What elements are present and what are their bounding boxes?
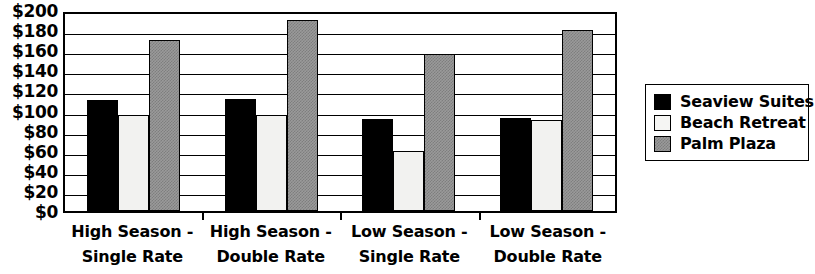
bar[interactable] [500, 118, 531, 211]
legend-item[interactable]: Beach Retreat [654, 112, 802, 133]
bar[interactable] [87, 100, 118, 211]
y-tick-label: $80 [23, 124, 58, 141]
legend-item[interactable]: Seaview Suites [654, 91, 802, 112]
y-tick-label: $200 [12, 3, 58, 20]
x-axis-ticks [63, 211, 617, 220]
bar-group [65, 14, 203, 211]
bar[interactable] [256, 115, 287, 211]
legend-item[interactable]: Palm Plaza [654, 133, 802, 154]
bar[interactable] [562, 30, 593, 211]
black-filled-swatch [654, 94, 671, 110]
bars-layer [65, 14, 615, 211]
category-line-1: Low Season - [351, 222, 467, 241]
x-axis-tick [202, 211, 204, 220]
category-line-2: Double Rate [202, 245, 341, 270]
y-tick-label: $20 [23, 184, 58, 201]
x-axis-category-labels: High Season -Single RateHigh Season -Dou… [63, 220, 617, 274]
y-tick-label: $40 [23, 164, 58, 181]
y-tick-label: $180 [12, 23, 58, 40]
bar[interactable] [118, 115, 149, 211]
y-tick-label: $160 [12, 43, 58, 60]
bar[interactable] [225, 99, 256, 211]
gray-textured-swatch [654, 136, 671, 152]
x-axis-category-label: Low Season -Single Rate [340, 220, 479, 274]
y-tick-label: $60 [23, 144, 58, 161]
bar[interactable] [287, 20, 318, 211]
plot-area [63, 12, 617, 213]
category-line-2: Single Rate [340, 245, 479, 270]
x-axis-tick [340, 211, 342, 220]
legend-item-label: Palm Plaza [680, 134, 776, 153]
y-tick-label: $140 [12, 63, 58, 80]
bar-group [203, 14, 341, 211]
bar-group [478, 14, 616, 211]
y-tick-label: $100 [12, 104, 58, 121]
bar-group [340, 14, 478, 211]
x-axis-category-label: High Season -Double Rate [202, 220, 341, 274]
x-axis-category-label: Low Season -Double Rate [479, 220, 618, 274]
y-tick-label: $120 [12, 83, 58, 100]
category-line-2: Single Rate [63, 245, 202, 270]
bar[interactable] [531, 120, 562, 211]
top-crop-artifact [63, 0, 393, 4]
y-tick-label: $0 [35, 204, 58, 221]
category-line-1: High Season - [210, 222, 332, 241]
legend-item-label: Seaview Suites [680, 92, 814, 111]
x-axis-category-label: High Season -Single Rate [63, 220, 202, 274]
legend-item-label: Beach Retreat [680, 113, 806, 132]
bar-chart: $200$180$160$140$120$100$80$60$40$20$0 H… [0, 0, 815, 274]
bar[interactable] [393, 151, 424, 211]
chart-legend: Seaview SuitesBeach RetreatPalm Plaza [645, 84, 809, 161]
x-axis-tick [479, 211, 481, 220]
category-line-1: High Season - [71, 222, 193, 241]
category-line-1: Low Season - [490, 222, 606, 241]
white-filled-swatch [654, 115, 671, 131]
y-axis: $200$180$160$140$120$100$80$60$40$20$0 [0, 0, 62, 274]
bar[interactable] [362, 119, 393, 211]
bar[interactable] [149, 40, 180, 211]
bar[interactable] [424, 54, 455, 211]
category-line-2: Double Rate [479, 245, 618, 270]
